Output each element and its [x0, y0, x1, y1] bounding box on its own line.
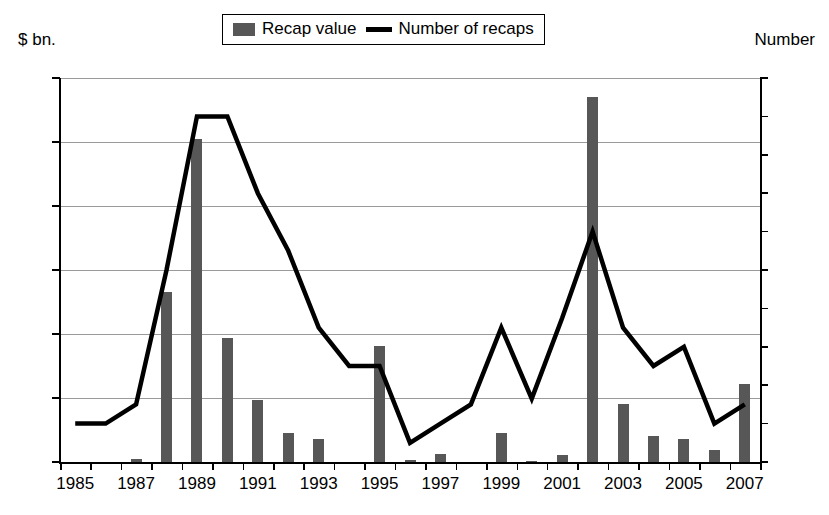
x-tick-label: 1991: [228, 474, 288, 494]
left-tick-mark: [52, 461, 60, 463]
right-tick-mark: [760, 231, 768, 233]
x-tick-label: 1987: [106, 474, 166, 494]
x-tick-mark: [60, 462, 62, 470]
x-tick-mark: [273, 462, 275, 470]
x-tick-mark: [669, 462, 671, 470]
right-axis-title: Number: [755, 30, 815, 50]
right-tick-mark: [760, 423, 768, 425]
left-axis-title: $ bn.: [18, 30, 56, 50]
left-tick-mark: [52, 333, 60, 335]
x-tick-mark: [90, 462, 92, 470]
left-tick-mark: [52, 205, 60, 207]
right-tick-mark: [760, 384, 768, 386]
bottom-axis-line: [59, 462, 761, 464]
x-tick-mark: [364, 462, 366, 470]
x-tick-mark: [425, 462, 427, 470]
x-tick-label: 1995: [350, 474, 410, 494]
right-tick-mark: [760, 192, 768, 194]
x-tick-mark: [212, 462, 214, 470]
x-tick-mark: [486, 462, 488, 470]
right-tick-mark: [760, 77, 768, 79]
x-tick-mark: [577, 462, 579, 470]
left-tick-mark: [52, 269, 60, 271]
x-tick-label: 2003: [593, 474, 653, 494]
x-tick-mark: [547, 462, 549, 470]
plot-area: 0123456 02468101214161820 19851987198919…: [60, 78, 760, 462]
x-tick-mark: [699, 462, 701, 470]
x-tick-mark: [608, 462, 610, 470]
left-tick-mark: [52, 77, 60, 79]
x-tick-mark: [395, 462, 397, 470]
x-tick-mark: [730, 462, 732, 470]
x-tick-mark: [638, 462, 640, 470]
legend-label-recap-value: Recap value: [262, 19, 357, 39]
legend-item-number-of-recaps: Number of recaps: [366, 19, 534, 39]
right-tick-mark: [760, 154, 768, 156]
x-tick-mark: [151, 462, 153, 470]
x-tick-mark: [121, 462, 123, 470]
x-tick-label: 1989: [167, 474, 227, 494]
x-tick-mark: [303, 462, 305, 470]
x-tick-label: 1997: [410, 474, 470, 494]
x-tick-label: 1999: [471, 474, 531, 494]
chart-legend: Recap value Number of recaps: [222, 14, 545, 45]
x-tick-label: 1993: [289, 474, 349, 494]
right-tick-mark: [760, 346, 768, 348]
legend-label-number-of-recaps: Number of recaps: [399, 19, 534, 39]
legend-bar-swatch-icon: [233, 23, 255, 36]
x-tick-label: 2005: [654, 474, 714, 494]
chart-root: $ bn. Number Recap value Number of recap…: [0, 0, 829, 515]
right-tick-mark: [760, 308, 768, 310]
x-tick-mark: [456, 462, 458, 470]
number-of-recaps-line: [75, 116, 745, 442]
x-tick-mark: [243, 462, 245, 470]
x-tick-label: 1985: [45, 474, 105, 494]
legend-item-recap-value: Recap value: [233, 19, 357, 39]
x-tick-mark: [760, 462, 762, 470]
x-tick-label: 2007: [715, 474, 775, 494]
left-tick-mark: [52, 141, 60, 143]
legend-line-swatch-icon: [366, 27, 392, 32]
right-tick-mark: [760, 269, 768, 271]
x-tick-mark: [334, 462, 336, 470]
line-series: [60, 78, 760, 462]
x-tick-mark: [517, 462, 519, 470]
x-tick-mark: [182, 462, 184, 470]
x-tick-label: 2001: [532, 474, 592, 494]
left-tick-mark: [52, 397, 60, 399]
right-tick-mark: [760, 116, 768, 118]
